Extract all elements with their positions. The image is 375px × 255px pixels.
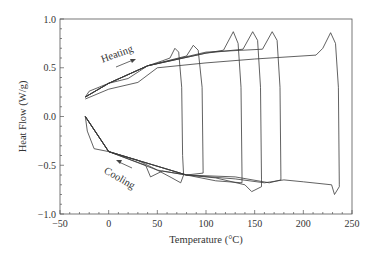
x-tick-label: 50: [152, 218, 162, 229]
y-tick-label: 0.5: [44, 62, 57, 73]
heating-annotation: Heating: [99, 43, 136, 67]
dsc-chart: −50 0 50 100 150 200 250 1.0 0.5 0.0 −0.…: [0, 0, 375, 255]
x-axis-label: Temperature (°C): [169, 234, 243, 246]
y-tick-label: −0.5: [38, 160, 56, 171]
x-tick-label: 0: [106, 218, 111, 229]
axis-ticks: [60, 19, 352, 214]
x-tick-label: 250: [345, 218, 360, 229]
y-axis-label: Heat Flow (W/g): [17, 80, 29, 152]
x-tick-label: −50: [52, 218, 68, 229]
plot-frame: [60, 19, 352, 214]
y-tick-label: 0.0: [44, 111, 57, 122]
dsc-curve: [85, 48, 183, 183]
x-tick-label: 100: [199, 218, 214, 229]
x-tick-label: 150: [247, 218, 262, 229]
y-tick-label: 1.0: [44, 14, 57, 25]
cooling-annotation: Cooling: [102, 160, 137, 192]
svg-text:Cooling: Cooling: [102, 165, 137, 192]
y-tick-label: −1.0: [38, 209, 56, 220]
x-tick-label: 200: [296, 218, 311, 229]
